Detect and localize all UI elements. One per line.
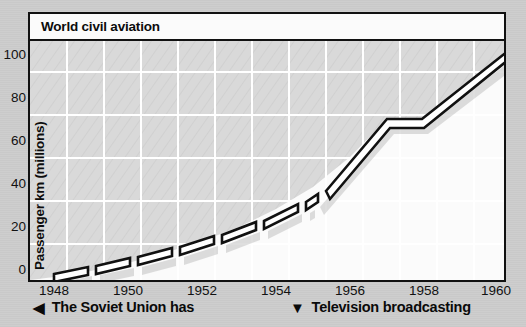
chart-title: World civil aviation (30, 19, 160, 34)
plot-svg (30, 41, 504, 280)
x-tick-1948: 1948 (39, 284, 69, 298)
y-axis-tick-labels: 100 80 60 40 20 0 (0, 12, 26, 282)
caption-row: ◀ The Soviet Union has ▼ Television broa… (0, 299, 526, 325)
chart-figure: World civil aviation (28, 12, 506, 282)
y-axis-title: Passenger km (millions) (30, 40, 48, 270)
y-tick-20: 20 (0, 220, 26, 234)
plot-backgrounds (30, 41, 504, 280)
caption-soviet-union[interactable]: ◀ The Soviet Union has (33, 299, 194, 315)
x-tick-1956: 1956 (335, 284, 365, 298)
y-tick-100: 100 (0, 48, 26, 62)
y-tick-60: 60 (0, 134, 26, 148)
page-background: 100 80 60 40 20 0 World civil aviation (0, 0, 526, 327)
x-tick-1960: 1960 (481, 284, 511, 298)
plot-area (30, 41, 504, 280)
caption-television[interactable]: ▼ Television broadcasting (290, 299, 471, 315)
y-tick-80: 80 (0, 91, 26, 105)
y-tick-0: 0 (0, 263, 26, 277)
caption-soviet-union-text: The Soviet Union has (52, 299, 194, 315)
chart-title-bar: World civil aviation (30, 14, 504, 41)
x-tick-1958: 1958 (409, 284, 439, 298)
x-tick-1952: 1952 (187, 284, 217, 298)
down-triangle-icon: ▼ (290, 300, 305, 315)
y-tick-40: 40 (0, 177, 26, 191)
x-tick-1954: 1954 (261, 284, 291, 298)
caption-television-text: Television broadcasting (312, 299, 471, 315)
x-tick-1950: 1950 (113, 284, 143, 298)
left-triangle-icon: ◀ (33, 300, 45, 315)
